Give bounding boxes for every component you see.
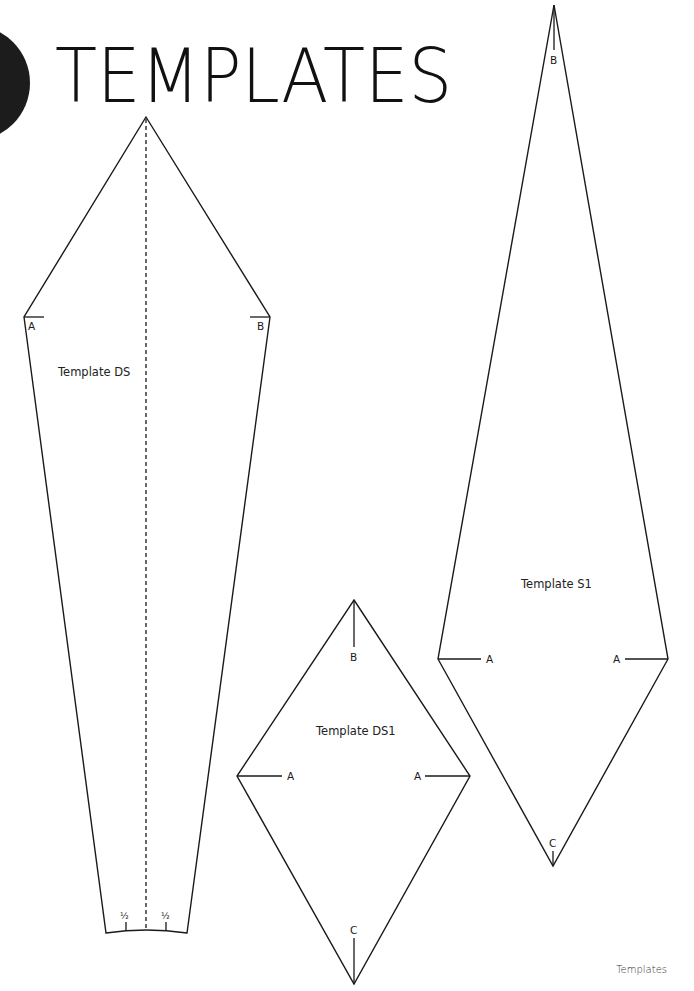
template-s1-point-a-right: A [613, 653, 620, 665]
template-ds1-point-c: C [350, 924, 357, 936]
template-ds1-point-a-right: A [414, 770, 421, 782]
template-ds1-point-b: B [350, 651, 357, 663]
template-ds-shape [24, 117, 270, 933]
template-s1-shape [438, 5, 668, 866]
template-ds-half-left: ½ [120, 911, 129, 921]
template-s1-label: Template S1 [521, 577, 592, 591]
template-ds1-point-a-left: A [287, 770, 294, 782]
page-footer: Templates [616, 964, 667, 975]
template-drawings [0, 0, 694, 991]
template-ds-corner-a: A [28, 320, 35, 332]
template-ds1-label: Template DS1 [316, 724, 396, 738]
template-s1-point-c: C [549, 837, 556, 849]
template-ds-label: Template DS [58, 365, 130, 379]
template-ds-half-right: ½ [161, 911, 170, 921]
templates-page: TEMPLATES Template DS A [0, 0, 694, 991]
template-s1-point-a-left: A [486, 653, 493, 665]
template-ds-corner-b: B [257, 320, 264, 332]
template-s1-point-b: B [550, 54, 557, 66]
